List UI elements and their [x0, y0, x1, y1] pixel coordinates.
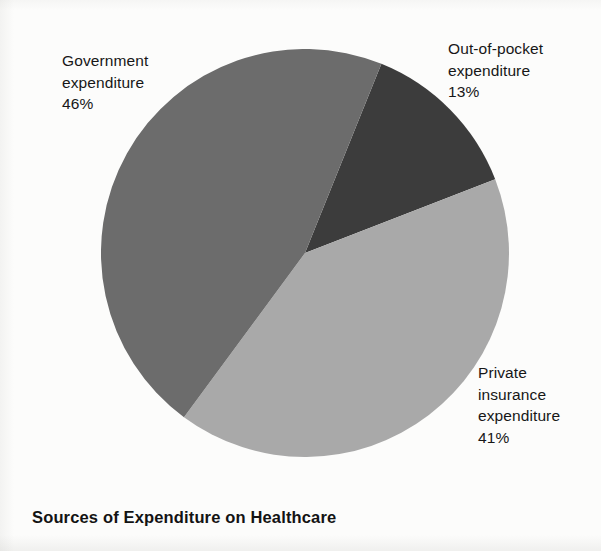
chart-title: Sources of Expenditure on Healthcare	[32, 508, 336, 527]
pie-chart	[101, 49, 509, 457]
pie-label-government: Government expenditure 46%	[62, 50, 148, 115]
pie-chart-svg	[101, 49, 509, 457]
pie-label-private-insurance: Private insurance expenditure 41%	[478, 362, 560, 448]
pie-label-out-of-pocket: Out-of-pocket expenditure 13%	[448, 38, 543, 103]
figure-page: Government expenditure 46% Out-of-pocket…	[0, 0, 601, 551]
